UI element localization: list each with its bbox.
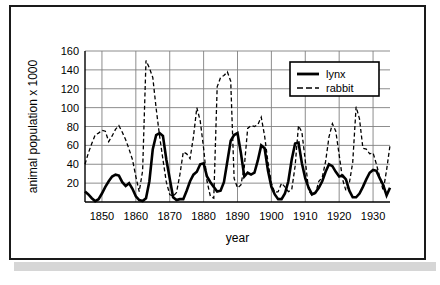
y-axis-tick-label: 20 [67,177,79,189]
figure-drop-shadow [14,262,436,271]
y-axis-title: animal population x 1000 [26,59,40,193]
y-axis-tick-label: 40 [67,158,79,170]
y-axis-tick-label: 140 [61,64,79,76]
x-axis-tick-label: 1850 [90,210,114,222]
figure-root: 2040608010012014016018501860187018801890… [0,0,440,285]
x-axis-tick-label: 1900 [259,210,283,222]
legend-label-lynx: lynx [326,68,346,80]
x-axis-tick-label: 1910 [293,210,317,222]
y-axis-tick-label: 60 [67,139,79,151]
y-axis-tick-label: 120 [61,83,79,95]
y-axis-tick-label: 160 [61,45,79,57]
x-axis-tick-label: 1930 [361,210,385,222]
population-chart: 2040608010012014016018501860187018801890… [9,5,426,260]
x-axis-tick-label: 1860 [124,210,148,222]
y-axis-tick-label: 80 [67,121,79,133]
x-axis-tick-label: 1920 [327,210,351,222]
y-axis-tick-label: 100 [61,102,79,114]
x-axis-title: year [226,231,249,245]
x-axis-tick-label: 1890 [225,210,249,222]
x-axis-tick-label: 1870 [157,210,181,222]
legend-label-rabbit: rabbit [326,82,354,94]
x-axis-tick-label: 1880 [191,210,215,222]
